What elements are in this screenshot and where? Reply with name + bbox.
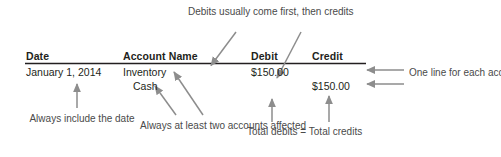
annotation-two-accounts-affected: Always at least two accounts affected: [140, 119, 260, 133]
arrow-two-accounts-left: [155, 86, 176, 115]
table-row-debit-amount: $150.00: [251, 66, 289, 78]
arrow-two-accounts-right: [174, 72, 203, 115]
column-header-credit: Credit: [312, 50, 343, 62]
table-row-date-value: January 1, 2014: [26, 66, 101, 78]
column-header-account-name: Account Name: [123, 50, 198, 62]
journal-entry-diagram: Date Account Name Debit Credit January 1…: [0, 0, 501, 157]
column-header-date: Date: [26, 50, 49, 62]
column-header-debit: Debit: [251, 50, 278, 62]
table-row-account-inventory: Inventory: [123, 66, 166, 78]
annotation-debits-first: Debits usually come first, then credits: [188, 5, 322, 19]
table-row-account-cash: Cash: [133, 80, 158, 92]
arrow-debits-first-left: [211, 32, 236, 66]
annotation-one-line-each-account: One line for each account affected: [409, 66, 501, 80]
annotation-total-debits-equal-credits: Total debits = Total credits: [247, 125, 377, 139]
table-row-credit-amount: $150.00: [312, 80, 350, 92]
annotation-always-include-date: Always include the date: [28, 112, 136, 126]
